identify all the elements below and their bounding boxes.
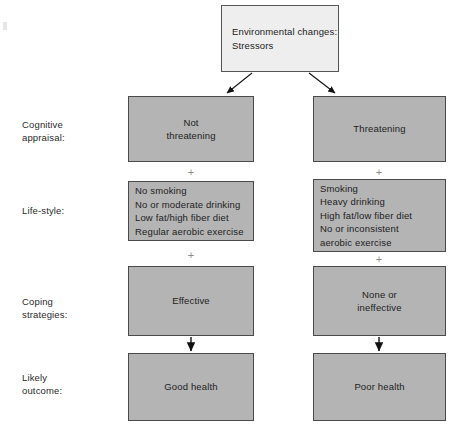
node-left-likely-outcome-label: Good health <box>164 380 217 394</box>
node-environmental-changes: Environmental changes: Stressors <box>221 5 339 72</box>
diagram-canvas: Cognitive appraisal: Life-style: Coping … <box>0 0 464 446</box>
plus-connector-left-appraisal-lifestyle: + <box>188 167 194 178</box>
arrow-top-to-right-appraisal <box>309 73 335 93</box>
node-right-cognitive-appraisal-label: Threatening <box>353 122 405 136</box>
row-label-likely-outcome: Likely outcome: <box>22 371 62 397</box>
node-right-coping-strategies-label: None or ineffective <box>357 288 401 315</box>
row-label-cognitive-appraisal: Cognitive appraisal: <box>22 118 65 144</box>
row-label-coping-strategies: Coping strategies: <box>22 295 67 321</box>
node-left-likely-outcome: Good health <box>128 353 254 421</box>
node-left-coping-strategies-label: Effective <box>172 294 210 308</box>
node-left-life-style: No smoking No or moderate drinking Low f… <box>128 181 254 241</box>
node-right-coping-strategies: None or ineffective <box>313 266 446 336</box>
node-left-cognitive-appraisal-label: Not threatening <box>166 116 215 143</box>
node-right-life-style-label: Smoking Heavy drinking High fat/low fibe… <box>314 182 412 250</box>
node-environmental-changes-label: Environmental changes: Stressors <box>222 25 337 52</box>
node-left-coping-strategies: Effective <box>128 266 254 336</box>
node-right-cognitive-appraisal: Threatening <box>313 96 446 162</box>
arrow-top-to-left-appraisal <box>227 73 252 93</box>
node-right-life-style: Smoking Heavy drinking High fat/low fibe… <box>313 179 446 252</box>
scan-artifact <box>3 22 7 30</box>
node-left-cognitive-appraisal: Not threatening <box>128 96 254 162</box>
node-left-life-style-label: No smoking No or moderate drinking Low f… <box>129 184 244 238</box>
node-right-likely-outcome: Poor health <box>313 353 446 421</box>
plus-connector-right-appraisal-lifestyle: + <box>376 167 382 178</box>
plus-connector-right-lifestyle-coping: + <box>376 254 382 265</box>
row-label-life-style: Life-style: <box>22 204 64 217</box>
plus-connector-left-lifestyle-coping: + <box>188 250 194 261</box>
node-right-likely-outcome-label: Poor health <box>354 380 404 394</box>
